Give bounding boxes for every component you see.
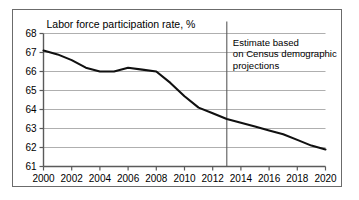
x-tick-label-2010: 2010 xyxy=(173,173,196,184)
x-tick-label-2020: 2020 xyxy=(314,173,337,184)
chart-figure: 6162636465666768200020022004200620082010… xyxy=(0,0,359,200)
y-tick-label-68: 68 xyxy=(25,28,37,39)
x-tick-label-2012: 2012 xyxy=(202,173,225,184)
chart-canvas: 6162636465666768200020022004200620082010… xyxy=(0,0,359,200)
x-tick-label-2002: 2002 xyxy=(61,173,84,184)
x-tick-label-2014: 2014 xyxy=(230,173,253,184)
chart-title: Labor force participation rate, % xyxy=(47,18,196,30)
annotation-line-1: Estimate based xyxy=(233,37,299,48)
data-line-labor-force-participation-rate xyxy=(44,51,326,150)
x-tick-label-2000: 2000 xyxy=(32,173,55,184)
y-tick-label-63: 63 xyxy=(25,123,37,134)
y-tick-label-62: 62 xyxy=(25,142,37,153)
x-tick-label-2008: 2008 xyxy=(145,173,168,184)
y-tick-label-65: 65 xyxy=(25,85,37,96)
x-tick-label-2004: 2004 xyxy=(89,173,112,184)
y-tick-label-66: 66 xyxy=(25,66,37,77)
annotation-line-3: projections xyxy=(233,60,280,71)
annotation-line-2: on Census demographic xyxy=(233,48,337,59)
x-tick-label-2016: 2016 xyxy=(258,173,281,184)
y-tick-label-64: 64 xyxy=(25,104,37,115)
x-tick-label-2006: 2006 xyxy=(117,173,140,184)
x-tick-label-2018: 2018 xyxy=(286,173,309,184)
y-tick-label-67: 67 xyxy=(25,47,37,58)
y-tick-label-61: 61 xyxy=(25,161,37,172)
